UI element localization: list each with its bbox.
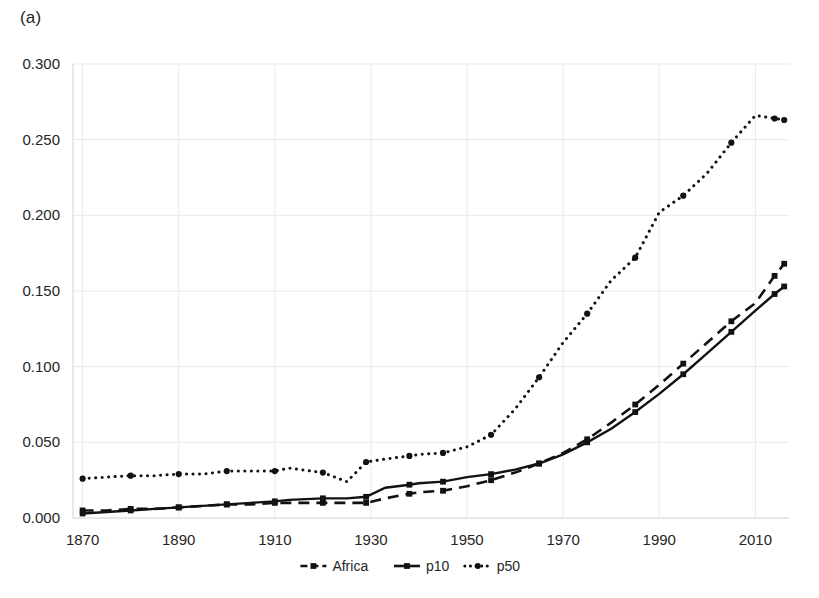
figure-panel-a: (a) 0.0000.0500.1000.1500.2000.2500.300 … [0,0,819,598]
gridlines [73,64,789,518]
x-tick-label: 1950 [450,531,483,548]
data-point-p10 [772,291,778,297]
data-point-africa [406,491,412,497]
data-point-p50 [680,193,686,199]
data-point-p50 [176,471,182,477]
data-point-africa [772,273,778,279]
legend-marker-p10 [404,563,410,569]
data-point-p10 [224,501,230,507]
data-point-p10 [272,498,278,504]
data-point-africa [440,488,446,494]
y-tick-label: 0.200 [22,206,60,223]
data-point-p50 [771,115,777,121]
x-tick-label: 1910 [258,531,291,548]
data-point-p10 [406,482,412,488]
data-series-layer [80,115,788,516]
legend-item-p50[interactable]: p50 [465,558,521,574]
data-point-p10 [363,494,369,500]
data-point-p50 [320,470,326,476]
y-tick-label: 0.150 [22,282,60,299]
data-point-p50 [80,476,86,482]
x-tick-label: 1970 [546,531,579,548]
data-point-p10 [488,471,494,477]
data-point-p10 [440,479,446,485]
data-point-africa [488,477,494,483]
data-point-p50 [781,117,787,123]
legend-item-africa[interactable]: Africa [300,558,368,574]
data-point-africa [363,500,369,506]
data-point-p10 [128,508,134,514]
data-point-p50 [728,140,734,146]
series-line-p50 [83,115,785,481]
data-point-africa [680,361,686,367]
data-point-p10 [176,505,182,511]
data-point-p10 [320,495,326,501]
x-axis-tick-labels: 18701890191019301950197019902010 [66,531,772,548]
data-point-p10 [80,511,86,517]
y-axis-tick-labels: 0.0000.0500.1000.1500.2000.2500.300 [22,55,60,526]
legend-marker-africa [311,563,317,569]
data-point-p50 [406,453,412,459]
y-tick-label: 0.250 [22,131,60,148]
data-point-p50 [488,432,494,438]
legend-label-p50: p50 [497,558,521,574]
x-tick-label: 2010 [739,531,772,548]
data-point-p10 [680,371,686,377]
x-tick-label: 1890 [162,531,195,548]
data-point-p10 [584,439,590,445]
legend-label-p10: p10 [426,558,450,574]
data-point-p10 [781,284,787,290]
data-point-p50 [536,374,542,380]
x-tick-label: 1870 [66,531,99,548]
x-tick-label: 1930 [354,531,387,548]
y-tick-label: 0.300 [22,55,60,72]
y-tick-label: 0.000 [22,509,60,526]
data-point-p50 [224,468,230,474]
data-point-p10 [632,409,638,415]
chart-canvas: 0.0000.0500.1000.1500.2000.2500.300 1870… [0,0,819,598]
data-point-p50 [272,468,278,474]
legend-marker-p50 [475,563,481,569]
series-line-p10 [83,286,785,513]
legend-item-p10[interactable]: p10 [394,558,450,574]
data-point-p50 [128,473,134,479]
legend-label-africa: Africa [332,558,368,574]
data-point-p50 [363,459,369,465]
chart-legend: Africap10p50 [300,558,520,574]
x-tick-label: 1990 [643,531,676,548]
data-point-africa [632,402,638,408]
data-point-p10 [536,461,542,467]
data-point-africa [728,318,734,324]
y-tick-label: 0.100 [22,358,60,375]
data-point-p50 [632,255,638,261]
data-point-p50 [584,311,590,317]
data-point-p50 [440,450,446,456]
y-tick-label: 0.050 [22,433,60,450]
data-point-africa [781,261,787,267]
data-point-p10 [728,329,734,335]
